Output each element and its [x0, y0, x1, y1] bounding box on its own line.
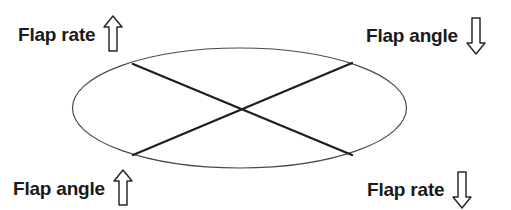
- label-bottom-right: Flap rate: [367, 168, 473, 210]
- label-top-right: Flap angle: [366, 14, 487, 56]
- arrow-up-icon: [102, 14, 124, 54]
- label-bottom-left-text: Flap angle: [13, 179, 105, 198]
- label-bottom-left: Flap angle: [13, 168, 134, 208]
- arrow-down-icon: [451, 168, 473, 210]
- label-top-right-text: Flap angle: [366, 26, 458, 45]
- arrow-down-icon: [465, 14, 487, 56]
- arrow-up-icon: [112, 168, 134, 208]
- label-bottom-right-text: Flap rate: [367, 180, 444, 199]
- label-top-left: Flap rate: [18, 14, 124, 54]
- flap-tradeoff-diagram: Flap rate Flap angle Flap angle Flap rat…: [0, 0, 511, 210]
- label-top-left-text: Flap rate: [18, 25, 95, 44]
